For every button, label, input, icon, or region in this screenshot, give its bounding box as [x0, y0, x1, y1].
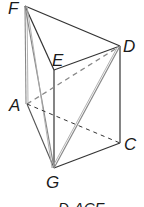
edge-F-D [25, 6, 120, 46]
edge-E-D [54, 46, 120, 70]
label-A: A [8, 96, 20, 115]
prism-diagram: F E D A C G D-ACF [0, 0, 144, 207]
caption: D-ACF [58, 199, 105, 207]
label-F: F [8, 0, 20, 18]
edge-F-E [25, 6, 54, 70]
label-C: C [124, 135, 137, 154]
edge-F-A [25, 6, 26, 104]
edge-D-G [54, 46, 120, 168]
label-G: G [46, 173, 59, 192]
label-E: E [52, 51, 64, 70]
edge-F-G-inner [27, 6, 52, 168]
edge-A-D-dashed [27, 46, 120, 104]
label-D: D [123, 37, 135, 56]
